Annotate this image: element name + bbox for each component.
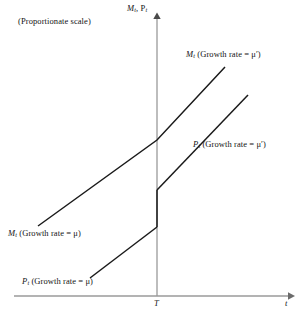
- curve-price-level-Pt-before-T: [90, 227, 157, 278]
- label-p-after-text: (Growth rate = μ′): [200, 139, 266, 149]
- label-p-before-text: (Growth rate = μ): [29, 276, 93, 286]
- x-axis-tick-label-T-text: T: [154, 298, 159, 308]
- label-price-level-after-T: Pt (Growth rate = μ′): [193, 140, 266, 150]
- y-axis-label-P-subscript: t: [145, 6, 147, 13]
- money-price-growth-rate-diagram: Mt, Pt (Proportionate scale) Mt (Growth …: [0, 0, 307, 322]
- x-axis-label-text: t: [285, 298, 287, 308]
- x-axis-arrowhead: [288, 292, 295, 300]
- label-m-before-text: (Growth rate = μ): [17, 228, 81, 238]
- label-m-after-text: (Growth rate = μ′): [195, 49, 261, 59]
- label-price-level-before-T: Pt (Growth rate = μ): [22, 277, 93, 287]
- y-axis-label: Mt, Pt: [127, 4, 147, 14]
- x-axis-label: t: [285, 299, 287, 309]
- label-money-supply-before-T: Mt (Growth rate = μ): [8, 229, 81, 239]
- x-axis-tick-label-T: T: [154, 299, 159, 309]
- y-axis-label-separator: , P: [136, 3, 145, 13]
- label-money-supply-after-T: Mt (Growth rate = μ′): [186, 50, 261, 60]
- y-axis-scale-note: (Proportionate scale): [18, 17, 91, 27]
- y-axis-arrowhead: [153, 13, 160, 20]
